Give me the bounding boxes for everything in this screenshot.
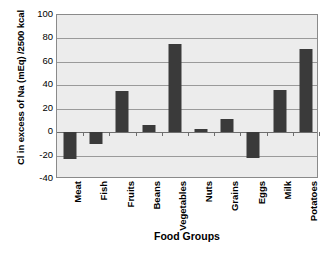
bar-slot bbox=[57, 15, 83, 177]
y-tick-label: 60 bbox=[20, 56, 53, 66]
bar[interactable] bbox=[299, 49, 312, 132]
x-axis-title: Food Groups bbox=[56, 230, 318, 242]
bar[interactable] bbox=[247, 132, 260, 158]
bar-slot bbox=[267, 15, 293, 177]
y-tick-label: 100 bbox=[20, 9, 53, 19]
bar[interactable] bbox=[221, 119, 234, 132]
bar-slot bbox=[83, 15, 109, 177]
bar-slot bbox=[162, 15, 188, 177]
bar-slot bbox=[109, 15, 135, 177]
bar[interactable] bbox=[116, 91, 129, 132]
y-axis-tick-labels: 100806040200-20-40 bbox=[20, 0, 53, 253]
bar-chart-figure: Cl in excess of Na (mEq) /2500 kcal 1008… bbox=[0, 0, 328, 253]
bar[interactable] bbox=[64, 132, 77, 159]
figure-caption bbox=[8, 245, 320, 253]
bar-slot bbox=[293, 15, 319, 177]
bar-series bbox=[57, 15, 317, 177]
bar[interactable] bbox=[142, 125, 155, 132]
bar[interactable] bbox=[195, 129, 208, 133]
y-tick-label: 20 bbox=[20, 103, 53, 113]
bar-slot bbox=[240, 15, 266, 177]
y-tick-label: -20 bbox=[20, 150, 53, 160]
bar[interactable] bbox=[273, 90, 286, 132]
bar-slot bbox=[214, 15, 240, 177]
x-tick-mark bbox=[319, 132, 320, 136]
bar-slot bbox=[188, 15, 214, 177]
bar[interactable] bbox=[168, 44, 181, 132]
y-tick-label: -40 bbox=[20, 173, 53, 183]
y-tick-label: 80 bbox=[20, 33, 53, 43]
y-tick-label: 40 bbox=[20, 80, 53, 90]
x-axis-tick-labels: MeatFishFruitsBeansVegetablesNutsGrainsE… bbox=[56, 178, 318, 238]
bar[interactable] bbox=[90, 132, 103, 144]
plot-area bbox=[56, 14, 318, 178]
bar-slot bbox=[136, 15, 162, 177]
y-tick-label: 0 bbox=[20, 126, 53, 136]
